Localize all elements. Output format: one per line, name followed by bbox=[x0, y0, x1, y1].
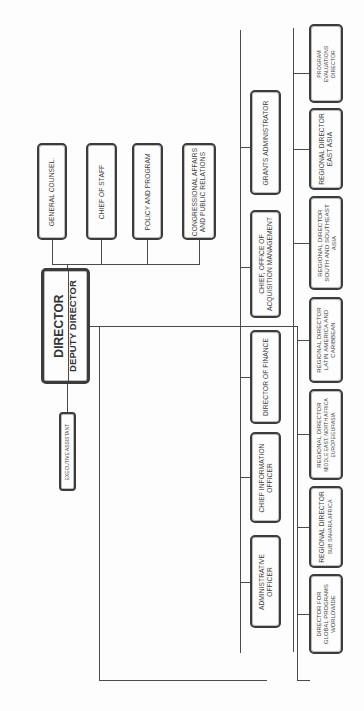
connector-south-asia bbox=[293, 243, 309, 244]
latin-america-line2: LATIN AMERICA AND bbox=[323, 307, 330, 372]
box-regional-sub-sahara[interactable]: REGIONAL DIRECTOR SUB SAHARA AFRICA bbox=[309, 486, 343, 568]
connector-admin bbox=[240, 582, 250, 583]
operations-spine bbox=[240, 30, 241, 653]
connector-program-eval bbox=[293, 73, 309, 74]
general-counsel-label: GENERAL COUNSEL. bbox=[48, 157, 56, 225]
policy-program-label: POLICY AND PROGRAM bbox=[144, 153, 152, 230]
box-director-of-finance[interactable]: DIRECTOR OF FINANCE bbox=[250, 330, 281, 424]
box-executive-assistant[interactable]: EXECUTIVE ASSISTANT bbox=[59, 412, 76, 491]
box-regional-latin-america[interactable]: REGIONAL DIRECTOR LATIN AMERICA AND CARI… bbox=[309, 297, 343, 383]
connector-east-asia bbox=[293, 149, 309, 150]
global-programs-line3: WORLDWIDE bbox=[330, 584, 337, 644]
box-grants-administrator[interactable]: GRANTS ADMINISTRATOR bbox=[250, 90, 281, 195]
connector-sub-sahara bbox=[297, 527, 309, 528]
chief-of-staff-label: CHIEF OF STAFF bbox=[98, 164, 106, 218]
cio-label-line2: OFFICER bbox=[266, 443, 274, 512]
programs-spine-secondary bbox=[297, 326, 298, 681]
acquisition-label-line2: ACQUISITION MANAGEMENT bbox=[266, 217, 274, 311]
program-eval-line1: PROGRAM bbox=[316, 45, 323, 82]
box-general-counsel[interactable]: GENERAL COUNSEL. bbox=[37, 143, 67, 240]
global-programs-line2: GLOBAL PROGRAMS bbox=[323, 584, 330, 644]
deputy-director-title: DEPUTY DIRECTOR bbox=[68, 280, 78, 372]
box-regional-middle-east[interactable]: REGIONAL DIRECTOR MIDDLE EAST, NORTH AFR… bbox=[309, 389, 343, 480]
connector-chief-of-staff bbox=[101, 240, 102, 264]
box-policy-program[interactable]: POLICY AND PROGRAM bbox=[132, 143, 163, 240]
connector-finance bbox=[240, 377, 250, 378]
south-asia-line3: ASIA bbox=[330, 204, 337, 282]
grants-admin-label: GRANTS ADMINISTRATOR bbox=[262, 100, 270, 185]
connector-global-programs bbox=[297, 614, 309, 615]
programs-spine-bottom bbox=[297, 680, 310, 681]
cio-label-line1: CHIEF INFORMATION bbox=[258, 443, 266, 512]
executive-assistant-label: EXECUTIVE ASSISTANT bbox=[65, 423, 71, 479]
connector-grants bbox=[240, 147, 250, 148]
middle-east-line1: REGIONAL DIRECTOR bbox=[316, 398, 323, 472]
finance-label: DIRECTOR OF FINANCE bbox=[262, 338, 270, 416]
connector-congressional bbox=[199, 240, 200, 264]
south-asia-line2: SOUTH AND SOUTHEAST bbox=[323, 204, 330, 282]
connector-acquisition bbox=[240, 267, 250, 268]
box-chief-of-staff[interactable]: CHIEF OF STAFF bbox=[86, 143, 117, 240]
acquisition-label-line1: CHIEF, OFFICE OF bbox=[258, 217, 266, 311]
box-regional-south-asia[interactable]: REGIONAL DIRECTOR SOUTH AND SOUTHEAST AS… bbox=[309, 196, 343, 290]
connector-latin-america bbox=[297, 340, 309, 341]
programs-spine bbox=[293, 28, 294, 652]
connector-director-loop-bottom bbox=[99, 680, 267, 681]
connector-general-counsel bbox=[52, 240, 53, 264]
admin-officer-label-line2: OFFICER bbox=[266, 553, 274, 609]
connector-exec-assistant bbox=[67, 384, 68, 413]
connector-cio bbox=[240, 477, 250, 478]
congressional-label-line1: CONGRESSIONAL AFFAIRS bbox=[191, 147, 199, 235]
latin-america-line3: CARIBBEAN bbox=[330, 307, 337, 372]
box-regional-east-asia[interactable]: REGIONAL DIRECTOR EAST ASIA bbox=[309, 108, 343, 190]
south-asia-line1: REGIONAL DIRECTOR bbox=[316, 204, 323, 282]
box-administrative-officer[interactable]: ADMINISTRATIVE OFFICER bbox=[250, 535, 281, 628]
box-director[interactable]: DIRECTOR DEPUTY DIRECTOR bbox=[41, 268, 90, 384]
global-programs-line1: DIRECTOR FOR bbox=[316, 584, 323, 644]
box-acquisition-management[interactable]: CHIEF, OFFICE OF ACQUISITION MANAGEMENT bbox=[250, 210, 281, 318]
program-eval-line3: DIRECTOR bbox=[330, 45, 337, 82]
sub-sahara-line1: REGIONAL DIRECTOR bbox=[318, 491, 326, 563]
connector-director-main bbox=[89, 326, 298, 327]
director-title: DIRECTOR bbox=[53, 280, 65, 372]
connector-middle-east bbox=[297, 434, 309, 435]
congressional-label-line2: AND PUBLIC RELATIONS bbox=[199, 147, 207, 235]
middle-east-line3: EUROPE/EURASIA bbox=[330, 398, 337, 472]
latin-america-line1: REGIONAL DIRECTOR bbox=[316, 307, 323, 372]
connector-policy-program bbox=[147, 240, 148, 264]
admin-officer-label-line1: ADMINISTRATIVE bbox=[258, 553, 266, 609]
east-asia-line2: EAST ASIA bbox=[326, 113, 334, 185]
connector-staff-bus bbox=[52, 264, 200, 265]
box-program-evaluations[interactable]: PROGRAM EVALUATIONS DIRECTOR bbox=[309, 24, 343, 103]
box-global-programs[interactable]: DIRECTOR FOR GLOBAL PROGRAMS WORLDWIDE bbox=[309, 574, 343, 654]
middle-east-line2: MIDDLE EAST, NORTH AFRICA bbox=[323, 398, 330, 472]
box-chief-information-officer[interactable]: CHIEF INFORMATION OFFICER bbox=[250, 432, 281, 523]
box-congressional-affairs[interactable]: CONGRESSIONAL AFFAIRS AND PUBLIC RELATIO… bbox=[182, 143, 216, 240]
sub-sahara-line2: SUB SAHARA AFRICA bbox=[326, 491, 334, 563]
connector-director-loop-vertical bbox=[99, 326, 100, 681]
east-asia-line1: REGIONAL DIRECTOR bbox=[318, 113, 326, 185]
program-eval-line2: EVALUATIONS bbox=[323, 45, 330, 82]
